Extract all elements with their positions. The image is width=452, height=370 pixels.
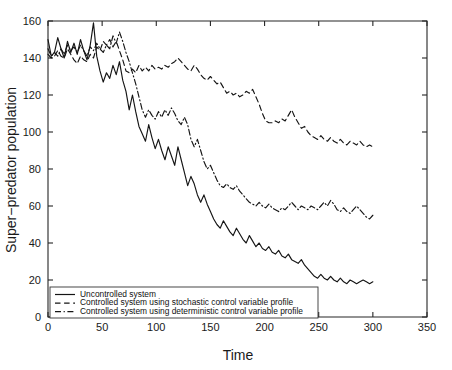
x-tick-label: 50 xyxy=(96,321,108,333)
y-tick-label: 40 xyxy=(29,237,41,249)
chart-legend: Uncontrolled systemControlled system usi… xyxy=(50,287,318,318)
legend-label-3: Controlled system using deterministic co… xyxy=(80,306,303,316)
chart-canvas: 0501001502002503003500204060801001201401… xyxy=(0,0,452,370)
x-tick-label: 200 xyxy=(255,321,273,333)
axes-frame-layer xyxy=(48,21,427,317)
y-tick-label: 20 xyxy=(29,274,41,286)
x-tick-label: 250 xyxy=(310,321,328,333)
series-line-1 xyxy=(48,23,373,284)
x-tick-label: 100 xyxy=(147,321,165,333)
x-tick-label: 150 xyxy=(201,321,219,333)
y-tick-label: 0 xyxy=(35,311,41,323)
y-tick-label: 60 xyxy=(29,200,41,212)
axis-ticks-layer: 0501001502002503003500204060801001201401… xyxy=(23,15,437,333)
x-tick-label: 300 xyxy=(364,321,382,333)
x-axis-title: Time xyxy=(223,347,254,363)
plot-frame xyxy=(48,21,427,317)
series-line-3 xyxy=(48,32,373,219)
y-tick-label: 140 xyxy=(23,52,41,64)
x-tick-label: 0 xyxy=(45,321,51,333)
y-tick-label: 160 xyxy=(23,15,41,27)
y-tick-label: 100 xyxy=(23,126,41,138)
figure-container: 0501001502002503003500204060801001201401… xyxy=(0,0,452,370)
y-tick-label: 80 xyxy=(29,163,41,175)
y-tick-label: 120 xyxy=(23,89,41,101)
data-series-layer xyxy=(48,23,373,284)
y-axis-title: Super−predator population xyxy=(3,87,19,253)
x-tick-label: 350 xyxy=(418,321,436,333)
